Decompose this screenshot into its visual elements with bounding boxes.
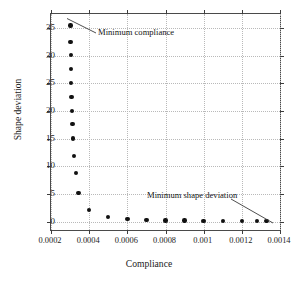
data-point xyxy=(125,217,129,221)
y-axis-tick-right xyxy=(280,56,284,57)
x-axis-tick xyxy=(166,230,167,234)
y-axis-tick-right xyxy=(280,166,284,167)
y-axis-tick-right xyxy=(280,28,284,29)
gridline-vertical xyxy=(280,14,281,230)
gridline-horizontal xyxy=(51,166,280,167)
x-axis-tick-top xyxy=(127,10,128,14)
x-axis-tick-label: 0.0004 xyxy=(77,236,100,246)
data-point xyxy=(264,219,268,223)
y-axis-tick-label: 35 xyxy=(46,22,55,32)
y-axis-tick-right xyxy=(280,194,284,195)
scatter-chart-figure: Compliance Shape deviation Minimum compl… xyxy=(0,0,298,286)
data-point xyxy=(71,136,75,140)
data-point xyxy=(68,40,72,44)
gridline-vertical xyxy=(127,14,128,230)
gridline-horizontal xyxy=(51,139,280,140)
data-point xyxy=(87,208,91,212)
x-axis-tick-label: 0.0008 xyxy=(153,236,176,246)
data-point xyxy=(74,171,78,175)
data-point xyxy=(70,122,74,126)
annotation-minimum-compliance: Minimum compliance xyxy=(98,27,174,37)
y-axis-tick-label: 25 xyxy=(46,77,55,87)
x-axis-tick xyxy=(51,230,52,234)
data-point xyxy=(69,81,73,85)
x-axis-tick-label: 0.0002 xyxy=(38,236,61,246)
data-point xyxy=(221,219,225,223)
x-axis-tick-label: 0.0006 xyxy=(115,236,138,246)
y-axis-tick-label: 10 xyxy=(46,160,55,170)
x-axis-tick-label: 0.0014 xyxy=(267,236,290,246)
x-axis-tick-top xyxy=(166,10,167,14)
data-point xyxy=(69,53,73,57)
x-axis-tick xyxy=(127,230,128,234)
data-point xyxy=(201,219,205,223)
y-axis-tick-right xyxy=(280,139,284,140)
gridline-horizontal xyxy=(51,56,280,57)
data-point xyxy=(70,109,74,113)
y-axis-tick-label: 5 xyxy=(51,188,56,198)
data-point xyxy=(76,191,80,195)
x-axis-tick-top xyxy=(89,10,90,14)
x-axis-tick-top xyxy=(51,10,52,14)
data-point xyxy=(106,215,110,219)
x-axis-tick xyxy=(89,230,90,234)
data-point xyxy=(255,219,259,223)
x-axis-tick-label: 0.001 xyxy=(193,236,212,246)
y-axis-label: Shape deviation xyxy=(12,45,23,175)
data-point xyxy=(72,154,76,158)
y-axis-tick-label: 15 xyxy=(46,133,55,143)
x-axis-tick xyxy=(242,230,243,234)
y-axis-tick-right xyxy=(280,83,284,84)
gridline-vertical xyxy=(89,14,90,230)
data-point xyxy=(69,95,73,99)
x-axis-tick-label: 0.0012 xyxy=(229,236,252,246)
x-axis-tick-top xyxy=(204,10,205,14)
x-axis-label: Compliance xyxy=(0,258,298,269)
x-axis-tick xyxy=(204,230,205,234)
data-point xyxy=(182,218,186,222)
y-axis-tick-label: 30 xyxy=(46,50,55,60)
y-axis-tick-right xyxy=(280,222,284,223)
gridline-vertical xyxy=(242,14,243,230)
data-point xyxy=(240,219,244,223)
y-axis-tick-right xyxy=(280,111,284,112)
data-point xyxy=(144,218,148,222)
x-axis-tick-top xyxy=(280,10,281,14)
y-axis-tick-label: 20 xyxy=(46,105,55,115)
x-axis-tick-top xyxy=(242,10,243,14)
data-point xyxy=(69,67,73,71)
gridline-horizontal xyxy=(51,111,280,112)
y-axis-tick-label: 0 xyxy=(51,216,56,226)
x-axis-tick xyxy=(280,230,281,234)
gridline-horizontal xyxy=(51,83,280,84)
data-point xyxy=(68,23,72,27)
data-point xyxy=(163,218,167,222)
annotation-minimum-shape-deviation: Minimum shape deviation xyxy=(147,190,237,200)
